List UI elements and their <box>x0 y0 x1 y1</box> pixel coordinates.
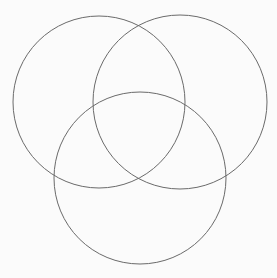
venn-diagram <box>0 0 277 278</box>
